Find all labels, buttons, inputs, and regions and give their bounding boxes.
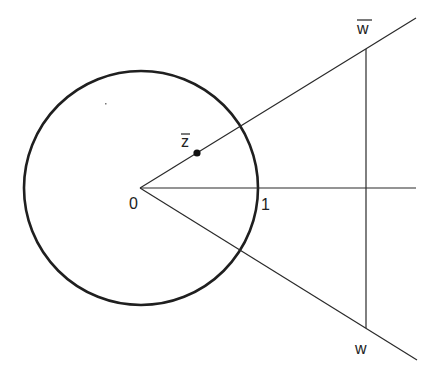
unit-point-label: 1 (261, 196, 270, 213)
z-label: z (181, 133, 189, 150)
lower-ray-line (140, 188, 417, 360)
stray-mark (105, 103, 107, 105)
w-label: w (354, 340, 367, 357)
origin-label: 0 (129, 195, 138, 212)
upper-ray-line (140, 18, 416, 188)
point-z-dot (193, 149, 200, 156)
diagram-canvas: 0 1 z w w (0, 0, 444, 380)
inversion-diagram: 0 1 z w w (0, 0, 444, 380)
w-bar-label: w (356, 20, 369, 37)
